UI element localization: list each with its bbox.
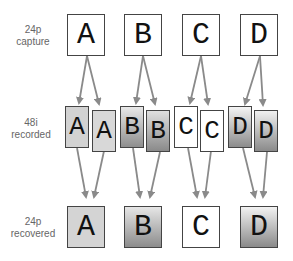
capture-frame-a: A [67, 14, 105, 56]
arrow-capture-a-field1 [79, 56, 87, 103]
recovered-frame-b: B [124, 206, 162, 248]
recorded-field-a2: A [92, 110, 116, 152]
arrow-field1-recovered-b [133, 148, 140, 197]
arrow-field2-recovered-c [205, 151, 211, 197]
arrow-capture-d-field1 [245, 56, 260, 104]
recorded-field-b1: B [120, 106, 144, 148]
recorded-field-b2: B [146, 110, 170, 152]
arrow-capture-c-field1 [190, 56, 201, 103]
recorded-field-d2: D [254, 110, 278, 152]
recorded-field-c1: C [174, 106, 198, 148]
arrow-capture-a-field2 [87, 56, 99, 104]
arrow-field1-recovered-a [77, 148, 86, 197]
recovered-frame-d: D [240, 206, 278, 248]
capture-frame-d: D [240, 14, 278, 56]
capture-frame-b: B [124, 14, 162, 56]
arrow-capture-b-field2 [143, 56, 155, 104]
recorded-field-a1: A [65, 106, 89, 148]
capture-frame-c: C [182, 14, 220, 56]
arrow-field2-recovered-d [263, 152, 267, 197]
arrow-capture-d-field2 [260, 56, 263, 105]
recorded-field-c2: C [200, 110, 224, 152]
arrow-field1-recovered-d [243, 148, 255, 197]
arrow-field2-recovered-b [150, 152, 160, 197]
arrow-capture-c-field2 [201, 56, 208, 104]
recovered-frame-c: C [182, 206, 220, 248]
recovered-frame-a: A [67, 206, 105, 248]
arrow-field2-recovered-a [94, 151, 104, 197]
arrow-field1-recovered-c [188, 148, 197, 197]
arrow-capture-b-field1 [136, 56, 143, 103]
recorded-field-d1: D [228, 106, 252, 148]
